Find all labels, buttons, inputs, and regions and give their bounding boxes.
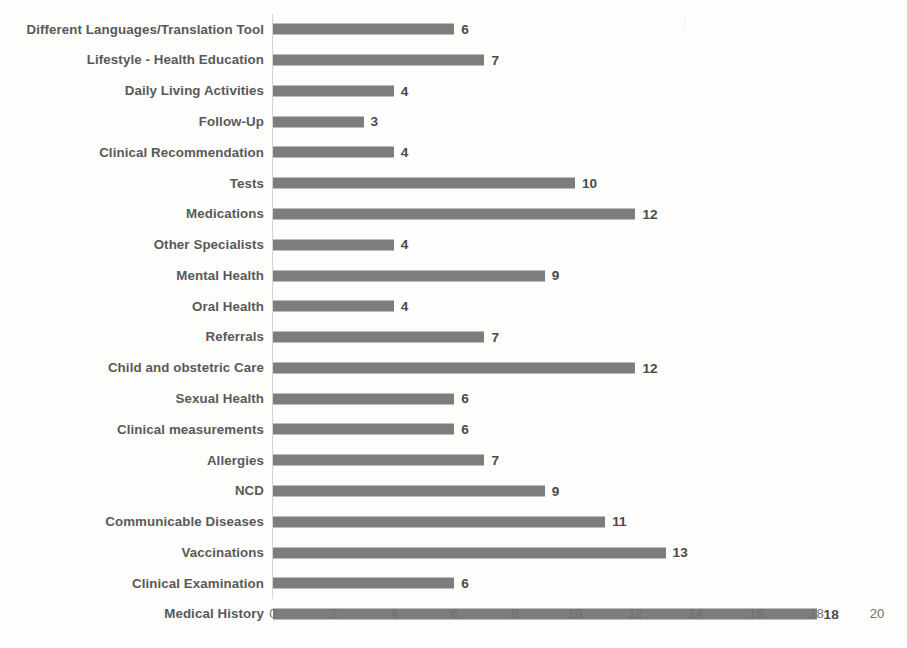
category-label: Different Languages/Translation Tool <box>0 23 264 36</box>
bar-value-label: 4 <box>401 84 409 98</box>
bar-value-label: 11 <box>612 515 626 529</box>
bar-value-label: 12 <box>642 361 657 375</box>
x-axis: 02468101214161820 <box>0 599 907 639</box>
bar <box>273 270 545 281</box>
bar-value-label: 7 <box>491 453 499 467</box>
category-label: NCD <box>0 484 264 497</box>
bar-row: Different Languages/Translation Tool6 <box>0 14 907 45</box>
bar-row: Medications12 <box>0 199 907 230</box>
bar-value-label: 6 <box>461 392 469 406</box>
bar-row: Mental Health9 <box>0 260 907 291</box>
bar-row: Sexual Health6 <box>0 383 907 414</box>
category-label: Vaccinations <box>0 546 264 559</box>
bar-row: Oral Health4 <box>0 291 907 322</box>
bar-track: 7 <box>273 55 499 66</box>
bar-row: Allergies7 <box>0 445 907 476</box>
bar <box>273 362 635 373</box>
bar-value-label: 6 <box>461 23 469 37</box>
bar-row: Child and obstetric Care12 <box>0 353 907 384</box>
bar-value-label: 9 <box>552 484 560 498</box>
bar-value-label: 10 <box>582 176 597 190</box>
category-label: Child and obstetric Care <box>0 361 264 374</box>
bar-track: 6 <box>273 24 469 35</box>
bar-row: Communicable Diseases11 <box>0 506 907 537</box>
bar-value-label: 7 <box>491 330 499 344</box>
bar <box>273 85 394 96</box>
bar-value-label: 13 <box>673 546 688 560</box>
x-axis-tick-label: 0 <box>269 607 276 620</box>
bar-row: Lifestyle - Health Education7 <box>0 45 907 76</box>
category-label: Clinical measurements <box>0 423 264 436</box>
bar-track: 4 <box>273 85 408 96</box>
bar-value-label: 9 <box>552 269 560 283</box>
category-label: Daily Living Activities <box>0 84 264 97</box>
x-axis-tick-label: 14 <box>688 607 703 620</box>
bar <box>273 578 454 589</box>
category-label: Tests <box>0 177 264 190</box>
bar-value-label: 7 <box>491 53 499 67</box>
bar-track: 12 <box>273 362 658 373</box>
bar-row: Clinical Recommendation4 <box>0 137 907 168</box>
bar <box>273 55 484 66</box>
category-label: Clinical Recommendation <box>0 146 264 159</box>
bar-track: 7 <box>273 455 499 466</box>
bar-value-label: 4 <box>401 238 409 252</box>
bar-track: 9 <box>273 270 559 281</box>
bar <box>273 485 545 496</box>
bar <box>273 178 575 189</box>
bar <box>273 301 394 312</box>
plot-area: Different Languages/Translation Tool6Lif… <box>0 0 907 648</box>
bar-track: 7 <box>273 332 499 343</box>
x-axis-tick-label: 20 <box>870 607 885 620</box>
bar <box>273 147 394 158</box>
bar-track: 11 <box>273 516 627 527</box>
category-label: Referrals <box>0 330 264 343</box>
category-label: Mental Health <box>0 269 264 282</box>
bar-track: 12 <box>273 208 658 219</box>
bar-row: Tests10 <box>0 168 907 199</box>
bar <box>273 208 635 219</box>
category-label: Medications <box>0 207 264 220</box>
bar-track: 6 <box>273 393 469 404</box>
x-axis-tick-label: 8 <box>511 607 518 620</box>
bar-track: 4 <box>273 147 408 158</box>
x-axis-tick-label: 2 <box>330 607 337 620</box>
bar <box>273 116 364 127</box>
bar <box>273 424 454 435</box>
bar-row: Vaccinations13 <box>0 537 907 568</box>
category-label: Follow-Up <box>0 115 264 128</box>
bar <box>273 24 454 35</box>
bar-row: Follow-Up3 <box>0 106 907 137</box>
x-axis-tick-label: 4 <box>390 607 397 620</box>
category-label: Other Specialists <box>0 238 264 251</box>
bar-track: 3 <box>273 116 378 127</box>
category-label: Oral Health <box>0 300 264 313</box>
x-axis-tick-label: 12 <box>628 607 643 620</box>
bar-value-label: 3 <box>371 115 379 129</box>
bar-row: Daily Living Activities4 <box>0 76 907 107</box>
bar-value-label: 12 <box>642 207 657 221</box>
x-axis-tick-label: 16 <box>749 607 764 620</box>
bar-value-label: 6 <box>461 577 469 591</box>
x-axis-tick-label: 10 <box>568 607 583 620</box>
bar <box>273 516 605 527</box>
bar <box>273 547 666 558</box>
bar <box>273 332 484 343</box>
x-axis-tick-label: 18 <box>809 607 824 620</box>
category-label: Allergies <box>0 454 264 467</box>
bar <box>273 455 484 466</box>
bar-row: Clinical measurements6 <box>0 414 907 445</box>
bar-chart: Different Languages/Translation Tool6Lif… <box>0 0 907 648</box>
bar-row: Clinical Examination6 <box>0 568 907 599</box>
bar-track: 13 <box>273 547 688 558</box>
bar-value-label: 4 <box>401 146 409 160</box>
bar-track: 9 <box>273 485 559 496</box>
bar-track: 10 <box>273 178 597 189</box>
bar-track: 6 <box>273 424 469 435</box>
bar-track: 4 <box>273 239 408 250</box>
bar-row: Referrals7 <box>0 322 907 353</box>
category-label: Communicable Diseases <box>0 515 264 528</box>
category-label: Lifestyle - Health Education <box>0 53 264 66</box>
bar-row: NCD9 <box>0 476 907 507</box>
bar <box>273 393 454 404</box>
